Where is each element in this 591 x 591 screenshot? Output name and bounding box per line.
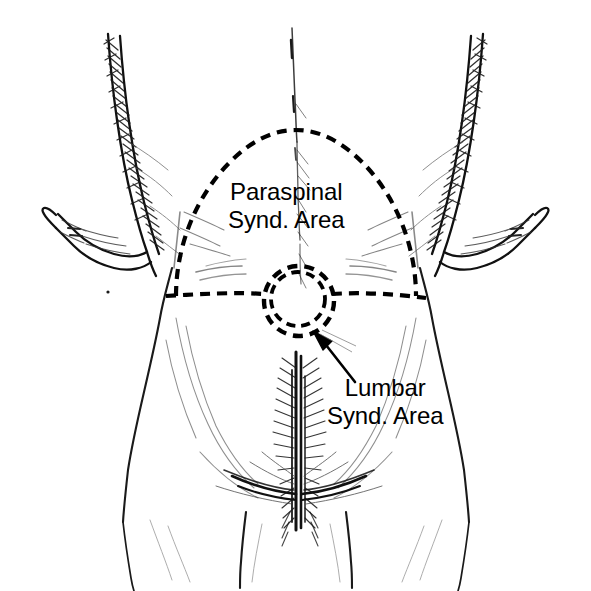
ink-speck [106,290,109,293]
paraspinal-label-line2: Synd. Area [228,206,344,234]
lumbar-label-line1: Lumbar [327,374,443,402]
lumbar-area-label: Lumbar Synd. Area [327,374,443,431]
paraspinal-area-label: Paraspinal Synd. Area [228,178,344,235]
anatomical-figure: Paraspinal Synd. Area Lumbar Synd. Area [0,0,591,591]
back-anatomy-drawing [0,0,591,591]
lumbar-label-line2: Synd. Area [327,402,443,430]
paraspinal-label-line1: Paraspinal [228,178,344,206]
